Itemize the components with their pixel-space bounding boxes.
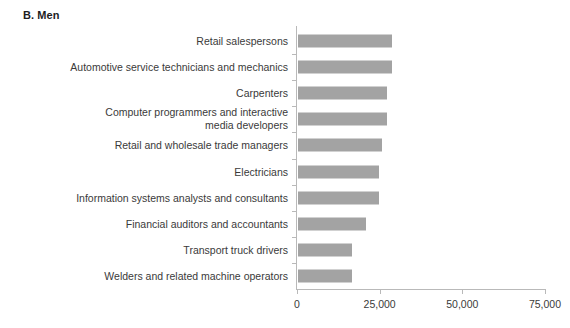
category-tick bbox=[292, 263, 297, 264]
category-tick bbox=[292, 54, 297, 55]
bar-row: Computer programmers and interactive med… bbox=[297, 106, 545, 132]
value-tick-label: 75,000 bbox=[529, 298, 561, 310]
bar bbox=[298, 191, 379, 204]
bar-row: Financial auditors and accountants bbox=[297, 211, 545, 237]
bar bbox=[298, 113, 387, 126]
category-label: Carpenters bbox=[16, 87, 288, 100]
plot-area: Retail salespersonsAutomotive service te… bbox=[297, 28, 545, 289]
value-tick bbox=[545, 289, 546, 294]
bar-row: Transport truck drivers bbox=[297, 237, 545, 263]
category-label: Transport truck drivers bbox=[16, 243, 288, 256]
bar bbox=[298, 217, 366, 230]
bar-row: Automotive service technicians and mecha… bbox=[297, 54, 545, 80]
category-label: Retail salespersons bbox=[16, 35, 288, 48]
panel-title: B. Men bbox=[23, 9, 60, 21]
category-label: Electricians bbox=[16, 165, 288, 178]
value-tick bbox=[462, 289, 463, 294]
bar-row: Retail salespersons bbox=[297, 28, 545, 54]
category-label: Information systems analysts and consult… bbox=[16, 191, 288, 204]
value-tick-label: 25,000 bbox=[364, 298, 396, 310]
category-label: Automotive service technicians and mecha… bbox=[16, 61, 288, 74]
bar bbox=[298, 35, 392, 48]
bar bbox=[298, 61, 392, 74]
bar bbox=[298, 165, 379, 178]
category-label: Retail and wholesale trade managers bbox=[16, 139, 288, 152]
bar bbox=[298, 243, 352, 256]
category-label: Computer programmers and interactive med… bbox=[16, 106, 288, 132]
bar-row: Electricians bbox=[297, 159, 545, 185]
category-tick bbox=[292, 185, 297, 186]
bar-row: Welders and related machine operators bbox=[297, 263, 545, 289]
bar-row: Information systems analysts and consult… bbox=[297, 185, 545, 211]
category-tick bbox=[292, 237, 297, 238]
category-tick bbox=[292, 132, 297, 133]
category-tick bbox=[292, 106, 297, 107]
category-tick bbox=[292, 211, 297, 212]
category-tick bbox=[292, 159, 297, 160]
category-label: Financial auditors and accountants bbox=[16, 217, 288, 230]
value-tick-label: 0 bbox=[294, 298, 300, 310]
value-axis-line bbox=[296, 289, 545, 290]
value-tick-label: 50,000 bbox=[446, 298, 478, 310]
bar bbox=[298, 87, 387, 100]
category-label: Welders and related machine operators bbox=[16, 269, 288, 282]
bar-row: Carpenters bbox=[297, 80, 545, 106]
chart-container: B. Men Retail salespersonsAutomotive ser… bbox=[0, 0, 570, 328]
bar bbox=[298, 139, 382, 152]
value-tick bbox=[297, 289, 298, 294]
bar-row: Retail and wholesale trade managers bbox=[297, 132, 545, 158]
bar bbox=[298, 269, 352, 282]
category-tick bbox=[292, 80, 297, 81]
value-tick bbox=[380, 289, 381, 294]
